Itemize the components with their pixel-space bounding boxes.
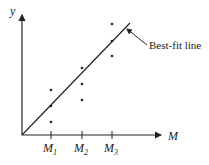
tick-label-m1: M1 (43, 141, 57, 157)
tick-label-m3: M3 (104, 141, 118, 157)
annotation-arrow (127, 29, 147, 45)
x-axis-label: M (168, 129, 178, 144)
tick-label-m2: M2 (74, 141, 88, 157)
y-axis-label: y (10, 4, 15, 19)
best-fit-line (22, 23, 130, 135)
best-fit-line-label: Best-fit line (149, 39, 201, 51)
